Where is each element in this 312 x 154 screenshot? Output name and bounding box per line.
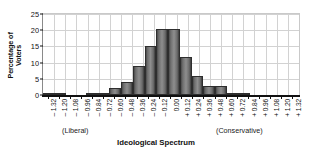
x-axis-tick-label: 0.00: [173, 99, 180, 111]
bar: [145, 46, 157, 95]
x-axis-tick-label: – 0.36: [139, 99, 146, 116]
x-axis-tick-label: – 0.24: [150, 99, 157, 116]
x-axis-tick-label: + 0.24: [195, 99, 202, 117]
y-axis-tick-label: 15: [31, 42, 43, 51]
bar: [133, 66, 145, 95]
bar: [168, 29, 180, 95]
x-axis-tick-label: + 1.08: [273, 99, 280, 117]
x-axis-tick-label: + 1.32: [295, 99, 302, 117]
right-anchor-label: (Conservative): [216, 126, 263, 135]
bar: [215, 86, 227, 95]
x-axis-tick-label: + 0.36: [206, 99, 213, 117]
bar: [109, 88, 121, 95]
y-axis-title-line-2: Voters: [15, 13, 23, 97]
x-axis-tick-label: + 0.96: [262, 99, 269, 117]
y-axis-tick-label: 5: [35, 74, 43, 83]
bar: [180, 57, 192, 95]
x-axis-tick-labels: – 1.32– 1.20– 1.08– 0.96– 0.84– 0.72– 0.…: [42, 99, 300, 125]
chart-figure: Percentage of Voters 0510152025 – 1.32– …: [0, 0, 312, 154]
x-axis-tick-label: – 0.84: [95, 99, 102, 116]
x-axis-tick-label: + 0.48: [217, 99, 224, 117]
x-axis-tick-label: – 0.48: [128, 99, 135, 116]
x-axis-tick-label: – 0.72: [106, 99, 113, 116]
x-axis-tick-label: + 0.12: [184, 99, 191, 117]
y-axis-title: Percentage of Voters: [7, 13, 24, 97]
x-axis-tick-label: + 0.84: [251, 99, 258, 117]
x-axis-tick-label: – 0.96: [84, 99, 91, 116]
bar-series: [43, 14, 299, 95]
y-axis-tick-label: 25: [31, 10, 43, 19]
x-axis-tick-label: – 0.12: [161, 99, 168, 116]
bar: [192, 76, 204, 95]
x-axis-tick-label: – 1.32: [50, 99, 57, 116]
left-anchor-label: (Liberal): [62, 126, 88, 135]
x-axis-tick-label: – 1.20: [61, 99, 68, 116]
x-axis-tick-label: + 1.20: [284, 99, 291, 117]
x-axis-tick-label: + 0.72: [239, 99, 246, 117]
x-axis-tick-label: + 0.60: [228, 99, 235, 117]
y-axis-tick-label: 20: [31, 26, 43, 35]
x-axis-title: Ideological Spectrum: [0, 138, 312, 147]
y-axis-tick-label: 10: [31, 58, 43, 67]
x-axis-tick-label: – 0.60: [117, 99, 124, 116]
bar: [156, 29, 168, 95]
x-axis-tick-label: – 1.08: [72, 99, 79, 116]
bar: [203, 86, 215, 95]
bar: [121, 82, 133, 95]
plot-area: 0510152025: [42, 13, 300, 95]
